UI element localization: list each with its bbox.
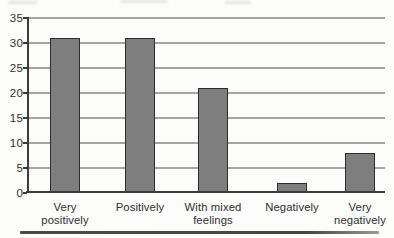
bar-very-negatively xyxy=(345,153,375,193)
y-tick-label-30: 30 xyxy=(0,37,23,50)
bar-with-mixed-feelings xyxy=(198,88,228,193)
page-horizontal-rule xyxy=(20,231,379,233)
x-category-label-very-negatively: Very negatively xyxy=(324,201,394,226)
x-category-label-positively: Positively xyxy=(104,201,176,214)
scanned-bar-chart-figure: 05101520253035Very positivelyPositivelyW… xyxy=(0,0,394,238)
x-category-label-very-positively: Very positively xyxy=(29,201,101,226)
x-axis-baseline xyxy=(26,191,385,193)
y-tick-label-15: 15 xyxy=(0,112,23,125)
scan-artifact xyxy=(120,0,168,3)
x-category-label-with-mixed-feelings: With mixed feelings xyxy=(177,201,249,226)
y-tick-label-10: 10 xyxy=(0,137,23,150)
bar-very-positively xyxy=(50,38,80,193)
y-tick-label-35: 35 xyxy=(0,12,23,25)
scan-artifact xyxy=(225,1,251,4)
y-tick-label-25: 25 xyxy=(0,62,23,75)
gridline-35 xyxy=(27,17,385,18)
y-tick-label-0: 0 xyxy=(0,187,23,200)
gridline-25 xyxy=(27,67,385,68)
y-tick-label-5: 5 xyxy=(0,162,23,175)
y-axis-line xyxy=(27,17,29,193)
scan-artifact xyxy=(8,1,38,4)
y-tick-label-20: 20 xyxy=(0,87,23,100)
bar-positively xyxy=(125,38,155,193)
x-category-label-negatively: Negatively xyxy=(256,201,328,214)
gridline-30 xyxy=(27,42,385,43)
